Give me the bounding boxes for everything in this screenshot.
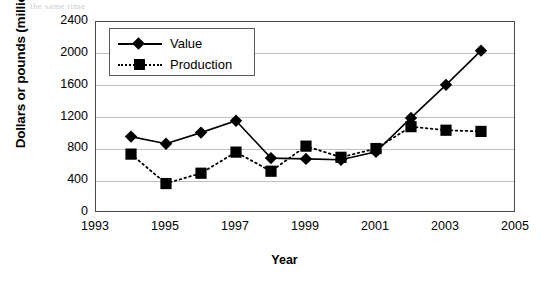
data-point-production [370,143,381,154]
y-tick-label: 2000 [42,45,88,59]
scan-ghost-text: the same time [30,1,85,11]
value-series-marker-icon [116,37,164,51]
data-point-production [300,141,311,152]
y-tick-label: 400 [42,172,88,186]
y-tick-label: 2400 [42,13,88,27]
data-point-production [265,166,276,177]
x-tick-label: 1993 [70,219,120,233]
x-tick-label: 1995 [140,219,190,233]
y-tick-label: 0 [42,204,88,218]
chart-legend: Value Production [109,28,255,76]
data-point-production [475,126,486,137]
data-point-production [125,149,136,160]
data-point-production [195,168,206,179]
legend-item-value: Value [116,33,248,54]
data-point-value [125,130,137,142]
y-axis-title: Dollars or pounds (millions) [13,0,28,164]
x-tick-label: 2003 [420,219,470,233]
production-series-marker-icon [116,58,164,72]
chart-figure: the same time Dollars or pounds (million… [0,0,541,281]
legend-label-value: Value [164,36,202,51]
y-tick-label: 1200 [42,109,88,123]
x-tick-label: 2005 [490,219,540,233]
y-tick-label: 1600 [42,77,88,91]
data-point-production [335,152,346,163]
x-axis-title: Year [0,253,541,267]
data-point-production [230,147,241,158]
data-point-production [160,178,171,189]
data-point-value [160,138,172,150]
legend-label-production: Production [164,57,232,72]
legend-item-production: Production [116,54,248,75]
data-point-production [440,125,451,136]
x-tick-label: 1999 [280,219,330,233]
x-tick-label: 2001 [350,219,400,233]
data-point-production [405,121,416,132]
data-point-value [300,153,312,165]
x-tick-label: 1997 [210,219,260,233]
y-tick-label: 800 [42,140,88,154]
data-point-value [195,126,207,138]
